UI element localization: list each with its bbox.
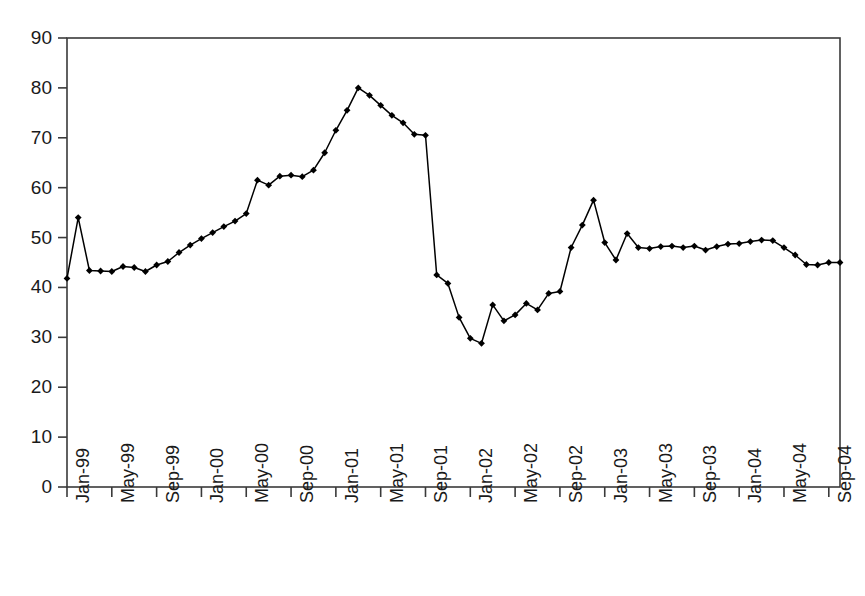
- data-point-markers: [64, 84, 844, 346]
- data-point-marker: [288, 172, 295, 179]
- x-axis-tick-label-9: Jan-02: [477, 448, 495, 503]
- data-point-marker: [142, 268, 149, 275]
- data-series-line: [67, 88, 840, 343]
- x-axis-tick-label-6: Jan-01: [343, 448, 361, 503]
- plot-frame: [67, 38, 840, 487]
- data-point-marker: [557, 288, 564, 295]
- data-point-marker: [198, 235, 205, 242]
- x-axis-tick-label-4: May-00: [253, 443, 271, 503]
- x-axis-tick-label-3: Jan-00: [208, 448, 226, 503]
- x-axis-tick-label-0: Jan-99: [74, 448, 92, 503]
- line-chart-plot: [0, 0, 865, 596]
- chart-container: 0102030405060708090 Jan-99May-99Sep-99Ja…: [0, 0, 865, 596]
- data-point-marker: [814, 262, 821, 269]
- x-axis-tick-label-17: Sep-04: [836, 445, 854, 503]
- data-point-marker: [299, 173, 306, 180]
- y-axis-tick-label-6: 60: [31, 178, 52, 197]
- data-point-marker: [646, 245, 653, 252]
- x-axis-tick-label-15: Jan-04: [746, 448, 764, 503]
- y-axis-tick-label-8: 80: [31, 78, 52, 97]
- y-axis-tick-label-0: 0: [41, 477, 52, 496]
- y-axis-ticks: [58, 38, 67, 487]
- data-point-marker: [758, 237, 765, 244]
- x-axis-tick-label-12: Jan-03: [612, 448, 630, 503]
- x-axis-tick-label-14: Sep-03: [701, 445, 719, 503]
- x-axis-tick-label-7: May-01: [388, 443, 406, 503]
- data-point-marker: [825, 259, 832, 266]
- data-point-marker: [332, 127, 339, 134]
- x-axis-tick-label-16: May-04: [791, 443, 809, 503]
- data-point-marker: [680, 244, 687, 251]
- x-axis-tick-label-2: Sep-99: [164, 445, 182, 503]
- data-point-marker: [725, 241, 732, 248]
- data-point-marker: [568, 244, 575, 251]
- data-point-marker: [456, 314, 463, 321]
- data-point-marker: [64, 275, 71, 282]
- data-point-marker: [478, 340, 485, 347]
- data-point-marker: [153, 262, 160, 269]
- data-point-marker: [97, 268, 104, 275]
- data-point-marker: [120, 263, 127, 270]
- y-axis-tick-label-4: 40: [31, 277, 52, 296]
- data-point-marker: [691, 243, 698, 250]
- data-point-marker: [467, 335, 474, 342]
- data-point-marker: [736, 240, 743, 247]
- data-point-marker: [579, 222, 586, 229]
- y-axis-tick-label-1: 10: [31, 427, 52, 446]
- y-axis-tick-label-2: 20: [31, 377, 52, 396]
- data-point-marker: [254, 177, 261, 184]
- data-point-marker: [220, 223, 227, 230]
- x-axis-tick-label-10: May-02: [522, 443, 540, 503]
- x-axis-tick-label-11: Sep-02: [567, 445, 585, 503]
- data-point-marker: [131, 264, 138, 271]
- axes-frame: [67, 38, 840, 487]
- data-point-marker: [702, 247, 709, 254]
- data-point-marker: [86, 267, 93, 274]
- data-point-marker: [590, 197, 597, 204]
- y-axis-tick-label-7: 70: [31, 128, 52, 147]
- y-axis-tick-label-5: 50: [31, 228, 52, 247]
- data-point-marker: [108, 268, 115, 275]
- x-axis-tick-label-5: Sep-00: [298, 445, 316, 503]
- y-axis-tick-label-3: 30: [31, 327, 52, 346]
- x-axis-tick-label-1: May-99: [119, 443, 137, 503]
- data-point-marker: [747, 238, 754, 245]
- data-point-marker: [75, 214, 82, 221]
- data-point-marker: [657, 243, 664, 250]
- y-axis-tick-label-9: 90: [31, 28, 52, 47]
- x-axis-tick-label-13: May-03: [657, 443, 675, 503]
- data-point-marker: [769, 237, 776, 244]
- data-point-marker: [837, 259, 844, 266]
- data-point-marker: [209, 229, 216, 236]
- data-point-marker: [344, 107, 351, 114]
- x-axis-tick-label-8: Sep-01: [432, 445, 450, 503]
- data-point-marker: [669, 243, 676, 250]
- data-point-marker: [422, 132, 429, 139]
- data-point-marker: [713, 243, 720, 250]
